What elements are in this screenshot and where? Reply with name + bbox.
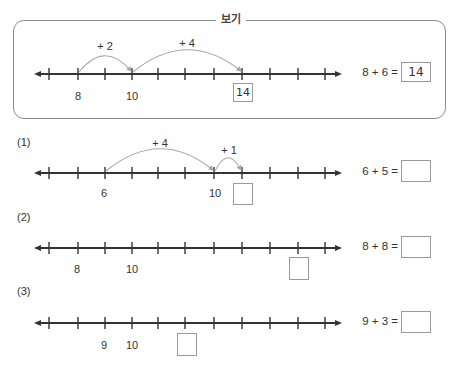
jump-label: + 4 xyxy=(152,137,168,150)
jump-label: + 4 xyxy=(179,37,195,50)
jump-arc xyxy=(106,149,213,171)
equation-answer-box[interactable] xyxy=(401,311,431,333)
example-answer-box: 14 xyxy=(401,62,431,82)
problem-equation: 8 + 8 = xyxy=(338,239,398,253)
left-arrow-icon xyxy=(34,71,41,77)
jump-arc xyxy=(133,50,241,72)
jump-arc xyxy=(215,158,241,171)
problem-3-number-line xyxy=(34,317,342,329)
tick-label: 10 xyxy=(126,339,138,352)
equation-answer-box[interactable] xyxy=(401,236,431,258)
jump-label: + 1 xyxy=(221,144,237,157)
problem-number: (2) xyxy=(17,211,30,224)
jump-label: + 2 xyxy=(97,40,113,53)
example-marked-box: 14 xyxy=(233,83,253,102)
number-line-answer-box[interactable] xyxy=(233,183,253,205)
number-line-answer-box[interactable] xyxy=(289,257,309,280)
problem-1-number-line xyxy=(34,149,342,179)
problem-equation: 6 + 5 = xyxy=(338,164,398,178)
number-line-answer-box[interactable] xyxy=(177,333,197,356)
tick-label: 8 xyxy=(74,263,80,276)
equation-answer-box[interactable] xyxy=(401,160,431,182)
tick-label: 6 xyxy=(101,187,107,200)
example-equation: 8 + 6 = xyxy=(338,65,398,79)
tick-label: 10 xyxy=(126,90,138,103)
problem-2-number-line xyxy=(34,242,342,254)
problem-number: (1) xyxy=(17,136,30,149)
tick-label: 8 xyxy=(75,90,81,103)
example-number-line xyxy=(34,50,342,80)
tick-label: 10 xyxy=(209,187,221,200)
tick-label: 10 xyxy=(126,263,138,276)
tick-label: 9 xyxy=(101,339,107,352)
problem-equation: 9 + 3 = xyxy=(338,314,398,328)
problem-number: (3) xyxy=(17,285,30,298)
